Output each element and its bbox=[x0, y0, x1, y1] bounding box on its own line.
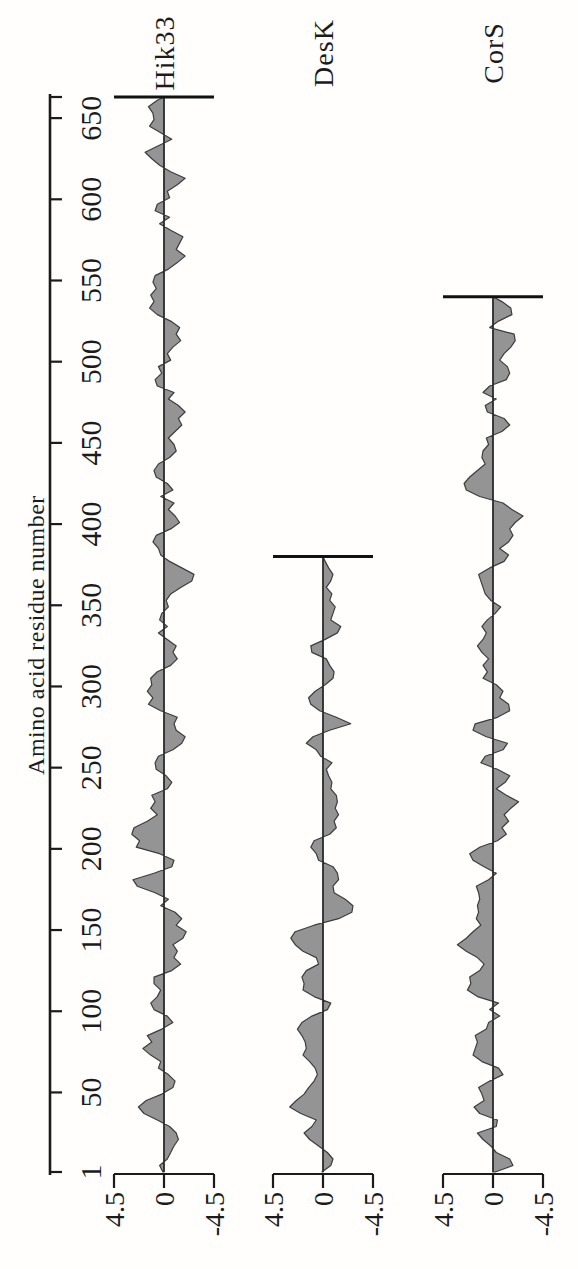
x-tick-label: 450 bbox=[74, 420, 107, 465]
rotated-chart-container: 1501001502002503003504004505005506006504… bbox=[0, 0, 578, 1269]
y-tick-label: -4.5 bbox=[528, 1192, 559, 1236]
y-tick-label: 4.5 bbox=[99, 1192, 130, 1227]
hydropathy-trace-cors bbox=[457, 297, 523, 1172]
x-tick-label: 400 bbox=[74, 502, 107, 547]
series-label-hik33: Hik33 bbox=[149, 16, 180, 91]
y-tick-label: 4.5 bbox=[258, 1192, 289, 1227]
x-tick-label: 550 bbox=[74, 258, 107, 303]
x-tick-label: 1 bbox=[74, 1165, 107, 1180]
x-tick-label: 600 bbox=[74, 177, 107, 222]
figure-canvas: 1501001502002503003504004505005506006504… bbox=[0, 0, 578, 1269]
y-tick-label: 0 bbox=[308, 1192, 339, 1206]
x-axis-title: Amino acid residue number bbox=[23, 495, 49, 775]
y-tick-label: 0 bbox=[149, 1192, 180, 1206]
y-tick-label: -4.5 bbox=[199, 1192, 230, 1236]
y-tick-label: 4.5 bbox=[428, 1192, 459, 1227]
x-tick-label: 250 bbox=[74, 745, 107, 790]
x-tick-label: 200 bbox=[74, 826, 107, 871]
x-tick-label: 100 bbox=[74, 989, 107, 1034]
x-tick-label: 150 bbox=[74, 908, 107, 953]
series-label-desk: DesK bbox=[308, 19, 339, 87]
series-label-cors: CorS bbox=[478, 22, 509, 84]
x-tick-label: 50 bbox=[74, 1077, 107, 1107]
y-tick-label: 0 bbox=[478, 1192, 509, 1206]
y-tick-label: -4.5 bbox=[358, 1192, 389, 1236]
hydropathy-plot: 1501001502002503003504004505005506006504… bbox=[0, 0, 578, 1269]
x-tick-label: 350 bbox=[74, 583, 107, 628]
x-tick-label: 650 bbox=[74, 96, 107, 141]
hydropathy-trace-hik33 bbox=[132, 97, 194, 1172]
x-tick-label: 500 bbox=[74, 339, 107, 384]
x-tick-label: 300 bbox=[74, 664, 107, 709]
hydropathy-trace-desk bbox=[290, 557, 353, 1172]
generated-chart-layer: 1501001502002503003504004505005506006504… bbox=[50, 94, 559, 1236]
